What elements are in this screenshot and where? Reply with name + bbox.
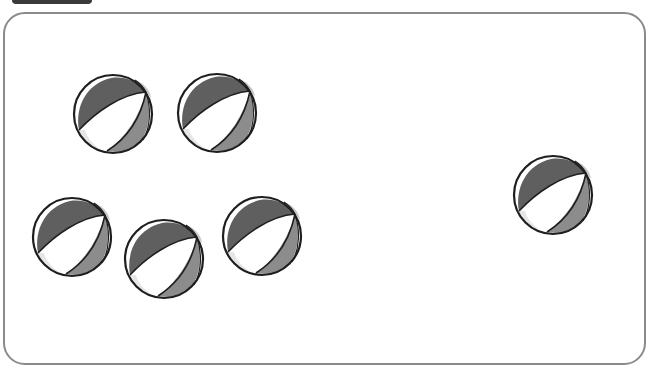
beach-ball-icon xyxy=(122,217,206,301)
beach-ball-icon xyxy=(175,71,259,155)
beach-ball-icon xyxy=(511,153,595,237)
beach-ball-icon xyxy=(30,195,114,279)
beach-ball-icon xyxy=(71,72,155,156)
beach-ball-icon xyxy=(220,194,304,278)
header-tab xyxy=(12,0,92,4)
